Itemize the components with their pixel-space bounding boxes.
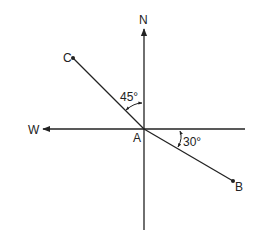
compass-diagram: N W A C B 45° 30° [0, 0, 265, 236]
angle-arc-30-icon [178, 131, 181, 147]
label-north: N [139, 13, 148, 27]
label-west: W [28, 123, 40, 137]
label-angle-45: 45° [120, 90, 138, 104]
label-point-c: C [63, 51, 72, 65]
angle-arc-45-icon [126, 103, 142, 110]
label-angle-30: 30° [183, 135, 201, 149]
label-point-b: B [235, 180, 243, 194]
label-origin-a: A [133, 131, 141, 145]
